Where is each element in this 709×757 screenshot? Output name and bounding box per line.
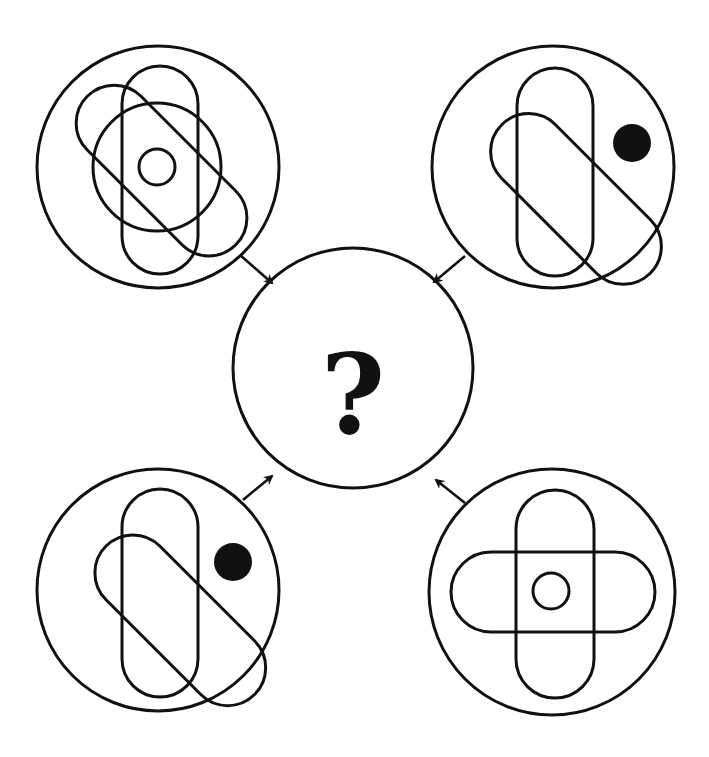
outer-circle: [432, 46, 674, 288]
horizontal-bar: [451, 552, 655, 632]
question-mark: ?: [321, 330, 385, 459]
vertical-bar: [122, 66, 198, 274]
panel-top-right: [432, 46, 677, 300]
black-dot-bottom-left: [214, 543, 252, 581]
outer-circle: [37, 46, 279, 288]
panel-bottom-right: [429, 469, 675, 715]
small-center-ring: [139, 149, 175, 185]
diagonal-bar: [60, 69, 262, 271]
outer-circle: [429, 469, 675, 715]
arrow-top-right: [434, 256, 465, 282]
vertical-bar: [122, 489, 198, 697]
black-dot-top-right: [613, 124, 651, 162]
arrow-top-left: [240, 255, 272, 283]
outer-circle: [37, 469, 279, 711]
panel-top-left: [37, 46, 279, 288]
vertical-bar: [516, 490, 594, 698]
arrow-bottom-left: [243, 476, 272, 500]
panel-bottom-left: [37, 469, 281, 721]
arrow-bottom-right: [436, 480, 465, 503]
vertical-bar: [517, 68, 593, 276]
puzzle-diagram: ?: [0, 0, 709, 757]
small-center-ring: [533, 573, 569, 609]
large-inner-circle: [93, 103, 221, 231]
